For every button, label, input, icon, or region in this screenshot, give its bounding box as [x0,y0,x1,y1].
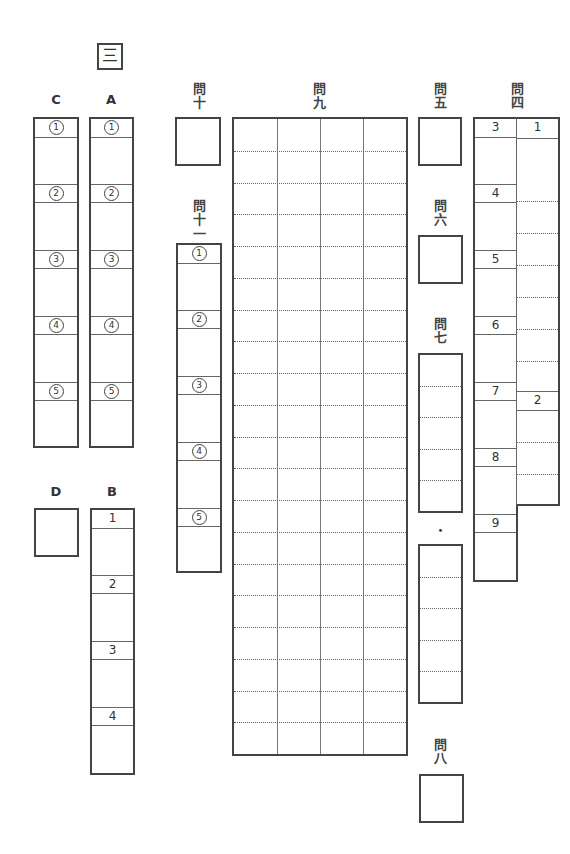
item-number-label: 4 [178,442,220,461]
column-c-answer-box[interactable]: 12345 [33,117,79,448]
item-number-label: 4 [91,316,132,335]
q9-label: 問九 [307,82,331,110]
item-number-label: 2 [92,575,133,594]
section-mark: 三 [97,43,123,70]
q10-answer-box[interactable] [175,117,221,166]
item-number-label: 1 [178,245,220,264]
item-number-label: 5 [475,250,516,269]
item-number-label: 2 [35,184,77,203]
q7-separator: ・ [418,520,463,539]
item-number-label: 7 [475,382,516,401]
q7-label: 問七 [428,317,452,345]
q8-label: 問八 [428,738,452,766]
q8-answer-box[interactable] [419,774,464,823]
item-number-label: 1 [91,119,132,138]
q11-answer-box[interactable]: 12345 [176,243,222,573]
q4-answer-box-left[interactable]: 3456789 [473,117,518,582]
item-number-label: 3 [91,250,132,269]
item-number-label: 4 [92,707,133,726]
item-number-label: 8 [475,448,516,467]
item-number-label: 9 [475,514,516,533]
item-number-label: 3 [35,250,77,269]
column-b-label: B [92,484,132,499]
column-b-answer-box[interactable]: 1234 [90,508,135,775]
item-number-label: 6 [475,316,516,335]
item-number-label: 1 [517,119,558,139]
column-a-label: A [91,92,131,107]
item-number-label: 5 [178,508,220,527]
q5-label: 問五 [428,82,452,110]
q7-answer-box-1[interactable] [418,353,463,513]
q4-answer-box-right[interactable]: 12 [516,117,560,506]
item-number-label: 3 [92,641,133,660]
q11-label: 問十一 [187,199,211,241]
q4-label: 問四 [505,82,529,110]
item-number-label: 2 [178,310,220,329]
item-number-label: 1 [35,119,77,138]
item-number-label: 3 [475,119,516,138]
q6-label: 問六 [428,199,452,227]
item-number-label: 5 [91,382,132,401]
item-number-label: 4 [475,184,516,203]
q9-writing-grid[interactable] [232,117,408,756]
item-number-label: 2 [91,184,132,203]
item-number-label: 4 [35,316,77,335]
column-d-answer-box[interactable] [34,508,79,557]
item-number-label: 3 [178,376,220,395]
item-number-label: 2 [517,391,558,411]
column-c-label: C [36,92,76,107]
column-a-answer-box[interactable]: 12345 [89,117,134,448]
item-number-label: 1 [92,510,133,529]
column-d-label: D [36,484,76,499]
item-number-label: 5 [35,382,77,401]
q10-label: 問十 [187,82,211,110]
q7-answer-box-2[interactable] [418,544,463,704]
q6-answer-box[interactable] [418,235,463,284]
q5-answer-box[interactable] [418,117,462,166]
